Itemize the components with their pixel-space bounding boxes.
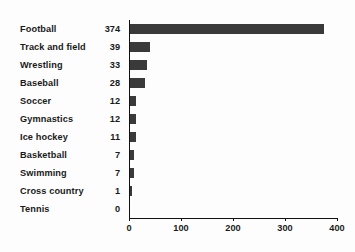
category-value: 12 bbox=[110, 110, 120, 128]
category-row: Swimming7 bbox=[0, 164, 123, 182]
bar bbox=[130, 186, 132, 196]
category-label: Football bbox=[20, 20, 57, 38]
category-label: Swimming bbox=[20, 164, 67, 182]
x-axis-tick-label: 400 bbox=[329, 223, 344, 233]
category-value: 374 bbox=[105, 20, 120, 38]
category-row: Wrestling33 bbox=[0, 56, 123, 74]
x-axis-tick-mark bbox=[181, 218, 182, 221]
category-value: 7 bbox=[115, 164, 120, 182]
x-axis-tick-mark bbox=[129, 218, 130, 221]
category-label: Soccer bbox=[20, 92, 51, 110]
x-axis-tick-mark bbox=[337, 218, 338, 221]
category-row: Cross country1 bbox=[0, 182, 123, 200]
x-axis-tick-label: 0 bbox=[126, 223, 131, 233]
category-row: Football374 bbox=[0, 20, 123, 38]
x-axis-tick-labels: 0100200300400 bbox=[129, 223, 344, 237]
category-row: Tennis0 bbox=[0, 200, 123, 218]
category-row: Baseball28 bbox=[0, 74, 123, 92]
category-label: Ice hockey bbox=[20, 128, 68, 146]
category-label: Tennis bbox=[20, 200, 50, 218]
category-label: Track and field bbox=[20, 38, 86, 56]
category-row: Gymnastics12 bbox=[0, 110, 123, 128]
bar bbox=[130, 96, 136, 106]
category-label: Cross country bbox=[20, 182, 84, 200]
category-value: 11 bbox=[110, 128, 120, 146]
bar bbox=[130, 78, 145, 88]
category-label: Wrestling bbox=[20, 56, 63, 74]
category-value: 39 bbox=[110, 38, 120, 56]
bar bbox=[130, 132, 136, 142]
category-row: Basketball7 bbox=[0, 146, 123, 164]
x-axis-tick-mark bbox=[233, 218, 234, 221]
x-axis-tick-mark bbox=[285, 218, 286, 221]
category-label: Gymnastics bbox=[20, 110, 73, 128]
category-row: Soccer12 bbox=[0, 92, 123, 110]
bar bbox=[130, 114, 136, 124]
category-value: 1 bbox=[115, 182, 120, 200]
x-axis-tick-label: 300 bbox=[277, 223, 292, 233]
bar bbox=[130, 42, 150, 52]
plot-area bbox=[129, 20, 337, 218]
category-row: Track and field39 bbox=[0, 38, 123, 56]
x-axis-tick-label: 100 bbox=[173, 223, 188, 233]
bar bbox=[130, 60, 147, 70]
category-value: 0 bbox=[115, 200, 120, 218]
category-label-column: Football374Track and field39Wrestling33B… bbox=[0, 20, 123, 218]
category-row: Ice hockey11 bbox=[0, 128, 123, 146]
category-value: 7 bbox=[115, 146, 120, 164]
category-value: 12 bbox=[110, 92, 120, 110]
category-value: 28 bbox=[110, 74, 120, 92]
bar bbox=[130, 150, 134, 160]
category-label: Baseball bbox=[20, 74, 59, 92]
bar bbox=[130, 24, 324, 34]
x-axis-tick-label: 200 bbox=[225, 223, 240, 233]
category-value: 33 bbox=[110, 56, 120, 74]
bar-chart: Football374Track and field39Wrestling33B… bbox=[0, 0, 355, 252]
category-label: Basketball bbox=[20, 146, 67, 164]
bar bbox=[130, 168, 134, 178]
